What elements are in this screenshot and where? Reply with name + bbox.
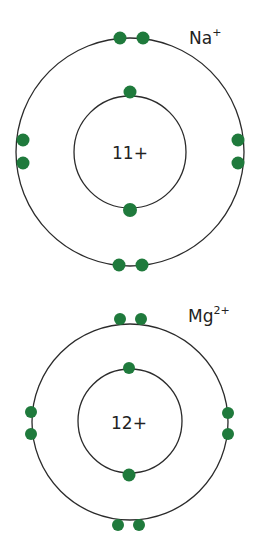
electron bbox=[232, 134, 245, 147]
nucleus-charge-label: 12+ bbox=[111, 413, 147, 433]
electron bbox=[114, 32, 127, 45]
electron bbox=[112, 519, 124, 531]
electron bbox=[137, 32, 150, 45]
electron bbox=[124, 86, 137, 99]
electron bbox=[17, 157, 30, 170]
ion-charge: + bbox=[212, 26, 221, 39]
ion-label: Na+ bbox=[189, 26, 221, 48]
ion-charge: 2+ bbox=[213, 304, 229, 317]
electron bbox=[133, 519, 145, 531]
ion-label: Mg2+ bbox=[188, 304, 230, 326]
electron bbox=[222, 407, 234, 419]
electron bbox=[25, 406, 37, 418]
electron bbox=[25, 428, 37, 440]
magnesium-ion-diagram: 12+ Mg2+ bbox=[25, 304, 234, 531]
electron bbox=[222, 428, 234, 440]
ion-symbol: Na bbox=[189, 28, 212, 48]
electron bbox=[123, 362, 135, 374]
electron bbox=[135, 313, 147, 325]
electron bbox=[136, 259, 149, 272]
ion-symbol: Mg bbox=[188, 306, 213, 326]
sodium-ion-diagram: 11+ Na+ bbox=[16, 26, 245, 272]
electron bbox=[123, 469, 136, 482]
electron bbox=[123, 203, 137, 217]
electron bbox=[113, 259, 126, 272]
electron bbox=[17, 134, 30, 147]
electron bbox=[114, 313, 126, 325]
nucleus-charge-label: 11+ bbox=[112, 143, 148, 163]
electron bbox=[232, 157, 245, 170]
bohr-diagrams: 11+ Na+ 12+ Mg2+ bbox=[0, 0, 257, 546]
